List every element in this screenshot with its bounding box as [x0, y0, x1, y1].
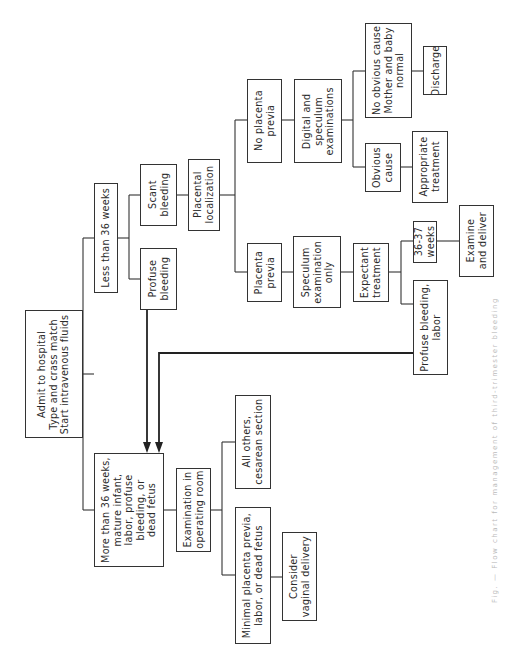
- node-exam-operating-room-label: Examination in operating room: [182, 471, 205, 549]
- node-expectant-treatment-label: Expectant treatment: [359, 247, 382, 298]
- node-placenta-previa: Placenta previa: [247, 243, 282, 302]
- node-obvious-cause-label: Obvious cause: [371, 147, 394, 188]
- node-no-obvious-cause: No obvious cause Mother and baby normal: [365, 23, 412, 118]
- node-scant-bleeding-label: Scant bleeding: [147, 173, 170, 217]
- node-consider-vaginal-delivery: Consider vaginal delivery: [282, 532, 317, 621]
- node-speculum-only: Speculum examination only: [293, 236, 341, 308]
- node-more-than-36-weeks-label: More than 36 weeks, mature infant, labor…: [100, 457, 158, 563]
- node-digital-speculum-label: Digital and speculum examinations: [301, 87, 336, 155]
- node-36-37-weeks: 36-37 weeks: [413, 221, 437, 263]
- node-admit-label: Admit to hospital Type and crass match S…: [37, 314, 72, 434]
- node-all-others-cesarean: All others, cesarean section: [235, 395, 271, 489]
- node-placental-localization-label: Placental localization: [192, 166, 215, 224]
- node-examine-deliver-label: Examine and deliver: [465, 212, 488, 269]
- node-admit: Admit to hospital Type and crass match S…: [25, 310, 83, 438]
- node-36-37-weeks-label: 36-37 weeks: [413, 226, 436, 258]
- node-discharge: Discharge: [423, 46, 447, 95]
- node-minimal-placenta-previa-label: Minimal placenta previa, labor, or dead …: [241, 513, 264, 638]
- arrowheads: [143, 442, 163, 453]
- node-scant-bleeding: Scant bleeding: [140, 164, 177, 226]
- node-digital-speculum: Digital and speculum examinations: [294, 79, 342, 163]
- node-profuse-bleeding-label: Profuse bleeding: [147, 257, 170, 301]
- node-obvious-cause: Obvious cause: [365, 143, 401, 192]
- node-profuse-bleeding-labor-label: Profuse bleeding, labor: [419, 283, 442, 371]
- node-profuse-bleeding-labor: Profuse bleeding, labor: [413, 280, 448, 375]
- flowchart-canvas: Admit to hospital Type and crass match S…: [0, 0, 509, 659]
- node-minimal-placenta-previa: Minimal placenta previa, labor, or dead …: [235, 507, 271, 644]
- node-consider-vaginal-delivery-label: Consider vaginal delivery: [288, 536, 311, 617]
- node-exam-operating-room: Examination in operating room: [176, 468, 211, 552]
- node-less-than-36-weeks: Less than 36 weeks: [94, 183, 118, 293]
- node-appropriate-treatment: Appropriate treatment: [412, 131, 448, 203]
- node-no-placenta-previa-label: No placenta previa: [253, 91, 276, 152]
- node-expectant-treatment: Expectant treatment: [353, 243, 389, 302]
- node-placental-localization: Placental localization: [188, 159, 220, 231]
- node-speculum-only-label: Speculum examination only: [300, 241, 335, 304]
- node-no-placenta-previa: No placenta previa: [247, 79, 282, 163]
- figure-caption: Fig. — Flow chart for management of thir…: [488, 250, 502, 650]
- figure-caption-text: Fig. — Flow chart for management of thir…: [491, 297, 499, 603]
- node-no-obvious-cause-label: No obvious cause Mother and baby normal: [371, 26, 406, 115]
- node-profuse-bleeding: Profuse bleeding: [140, 248, 177, 310]
- node-appropriate-treatment-label: Appropriate treatment: [418, 137, 441, 197]
- node-all-others-cesarean-label: All others, cesarean section: [241, 399, 264, 485]
- node-less-than-36-weeks-label: Less than 36 weeks: [100, 188, 112, 288]
- node-more-than-36-weeks: More than 36 weeks, mature infant, labor…: [94, 453, 164, 567]
- node-placenta-previa-label: Placenta previa: [253, 251, 276, 295]
- node-discharge-label: Discharge: [429, 46, 441, 95]
